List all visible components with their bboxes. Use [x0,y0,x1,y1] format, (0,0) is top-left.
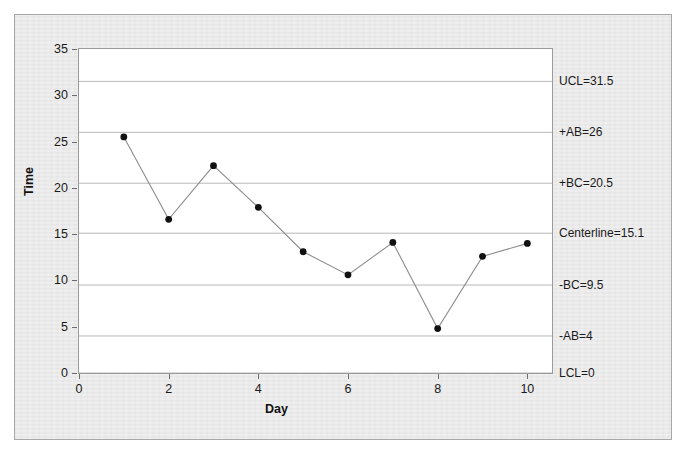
y-tick-label: 10 [34,274,68,287]
data-point[interactable] [165,216,172,223]
x-tick-mark [169,374,170,379]
data-point[interactable] [255,204,262,211]
y-tick-label: 5 [34,321,68,334]
x-tick-label: 6 [333,383,363,396]
data-point[interactable] [524,240,531,247]
y-tick-mark [72,327,77,328]
x-tick-mark [79,374,80,379]
y-tick-mark [72,49,77,50]
x-tick-label: 0 [64,383,94,396]
control-chart-screenshot: Time 35302520151050 0246810 Day UCL=31.5… [0,0,686,454]
data-point[interactable] [389,239,396,246]
data-point[interactable] [434,325,441,332]
plot-area [78,48,553,374]
y-tick-label: 0 [34,367,68,380]
x-tick-mark [438,374,439,379]
x-tick-label: 8 [423,383,453,396]
x-tick-label: 2 [154,383,184,396]
data-point[interactable] [120,134,127,141]
y-tick-mark [72,234,77,235]
data-point[interactable] [300,248,307,255]
control-limit-label-ucl: UCL=31.5 [559,75,613,87]
control-limit-label-minusbc: -BC=9.5 [559,279,603,291]
control-limit-label-plusbc: +BC=20.5 [559,177,613,189]
y-tick-label: 20 [34,182,68,195]
x-tick-mark [527,374,528,379]
y-tick-mark [72,373,77,374]
y-tick-label: 30 [34,89,68,102]
y-tick-label: 25 [34,136,68,149]
y-tick-label: 15 [34,228,68,241]
x-axis-title: Day [0,402,553,416]
y-tick-mark [72,280,77,281]
control-limit-label-centerline: Centerline=15.1 [559,227,644,239]
control-limit-label-lcl: LCL=0 [559,367,595,379]
data-point[interactable] [479,253,486,260]
y-tick-mark [72,95,77,96]
data-point[interactable] [345,271,352,278]
y-tick-label: 35 [34,43,68,56]
data-point[interactable] [210,162,217,169]
control-limit-label-plusab: +AB=26 [559,126,602,138]
y-tick-mark [72,142,77,143]
y-tick-mark [72,188,77,189]
x-tick-label: 4 [243,383,273,396]
x-tick-mark [348,374,349,379]
x-tick-mark [258,374,259,379]
control-limit-label-minusab: -AB=4 [559,330,593,342]
x-tick-label: 10 [512,383,542,396]
plot-svg [79,49,552,373]
